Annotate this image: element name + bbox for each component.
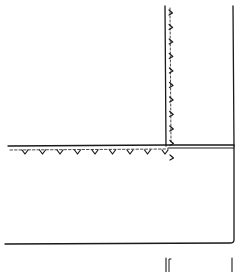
stitch-tick (145, 150, 151, 154)
stitch-tick (169, 39, 173, 44)
band-top-edge (8, 145, 234, 146)
stitch-tick (170, 155, 174, 160)
stitch-tick (92, 150, 98, 154)
bottom-fragments (166, 258, 232, 272)
stitch-tick (170, 97, 174, 102)
strip-left-edge (165, 6, 166, 146)
stitch-tick (110, 150, 116, 154)
horizontal-band (8, 145, 234, 154)
vertical-strip (165, 6, 234, 160)
stitch-tick (40, 150, 46, 154)
stitch-tick (127, 150, 133, 154)
stitch-tick (57, 150, 63, 154)
stitch-tick (162, 150, 168, 154)
lower-box-outline (5, 146, 234, 244)
stitch-tick (170, 112, 174, 117)
stitch-tick (169, 54, 173, 59)
stitch-tick (169, 68, 173, 73)
strip-right-edge (233, 6, 234, 146)
stitch-tick (169, 10, 173, 15)
stitch-tick (169, 25, 173, 30)
diagram-canvas (0, 0, 238, 272)
fragment-bracket (169, 259, 171, 272)
stitch-tick (22, 150, 28, 154)
stitch-tick (170, 126, 174, 131)
horizontal-tick-marks (22, 150, 168, 154)
stitch-tick (75, 150, 81, 154)
stitch-tick (170, 83, 174, 88)
